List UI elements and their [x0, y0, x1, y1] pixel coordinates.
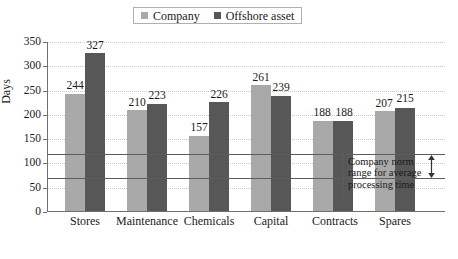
bar-value-offshore-capital: 239 — [264, 82, 298, 94]
norm-annotation-line-2: range for average — [348, 167, 432, 179]
square-swatch-icon — [214, 12, 221, 19]
bar-company-capital[interactable] — [251, 85, 271, 212]
bar-value-offshore-spares: 215 — [388, 93, 422, 105]
legend-item-offshore-asset: Offshore asset — [214, 10, 295, 22]
legend-item-company: Company — [141, 10, 200, 22]
plot-area: 350 300 250 200 150 100 50 0 244 327 — [47, 42, 445, 212]
x-axis-labels: Stores Maintenance Chemicals Capital Con… — [47, 215, 445, 233]
bar-value-offshore-maintenance: 223 — [140, 90, 174, 102]
bar-value-offshore-contracts: 188 — [327, 107, 361, 119]
bar-chart: Company Offshore asset Days 350 300 250 … — [0, 0, 458, 259]
bar-group-chemicals: 157 226 — [189, 42, 229, 212]
x-label-spares: Spares — [365, 215, 425, 228]
x-label-contracts: Contracts — [299, 215, 371, 228]
y-tick-mark-0 — [43, 212, 47, 213]
y-tick-150: 150 — [5, 133, 41, 145]
bar-group-stores: 244 327 — [65, 42, 105, 212]
bar-group-maintenance: 210 223 — [127, 42, 167, 212]
bar-company-chemicals[interactable] — [189, 136, 209, 212]
bar-company-maintenance[interactable] — [127, 110, 147, 212]
bar-offshore-chemicals[interactable] — [209, 102, 229, 212]
y-tick-200: 200 — [5, 109, 41, 121]
legend-label-offshore-asset: Offshore asset — [226, 10, 295, 22]
x-axis-line — [47, 211, 445, 212]
y-tick-100: 100 — [5, 157, 41, 169]
square-swatch-icon — [141, 12, 148, 19]
double-headed-arrow-icon — [427, 155, 436, 178]
bar-value-offshore-chemicals: 226 — [202, 89, 236, 101]
norm-annotation-line-1: Company norm — [348, 156, 432, 168]
y-tick-0: 0 — [5, 206, 41, 218]
y-axis-line — [47, 42, 48, 212]
x-label-chemicals: Chemicals — [173, 215, 245, 228]
bar-offshore-maintenance[interactable] — [147, 104, 167, 212]
norm-annotation-line-3: processing time — [348, 179, 432, 191]
y-tick-50: 50 — [5, 182, 41, 194]
chart-legend: Company Offshore asset — [133, 7, 302, 24]
y-tick-250: 250 — [5, 85, 41, 97]
y-tick-300: 300 — [5, 60, 41, 72]
bar-offshore-stores[interactable] — [85, 53, 105, 212]
bar-company-contracts[interactable] — [313, 121, 333, 212]
bar-value-offshore-stores: 327 — [78, 40, 112, 52]
bar-group-capital: 261 239 — [251, 42, 291, 212]
y-tick-350: 350 — [5, 36, 41, 48]
legend-label-company: Company — [153, 10, 200, 22]
x-label-capital: Capital — [241, 215, 301, 228]
